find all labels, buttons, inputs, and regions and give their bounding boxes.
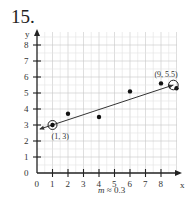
x-tick-label: 7 — [143, 179, 148, 189]
data-point — [128, 89, 132, 93]
y-axis-label: y — [25, 29, 30, 39]
x-axis-arrow-icon — [175, 170, 182, 176]
trend-arrow-icon — [39, 126, 44, 130]
y-tick-label: 4 — [24, 104, 29, 114]
y-tick-label: 1 — [24, 152, 29, 162]
grid — [37, 32, 177, 173]
scatter-plot: xy 012345678012345678 (1, 3)(9, 5.5) — [0, 0, 189, 207]
y-tick-label: 7 — [24, 56, 29, 66]
y-tick-label: 5 — [24, 88, 29, 98]
highlighted-points: (1, 3)(9, 5.5) — [48, 70, 178, 141]
slope-value: ≈ 0.3 — [105, 185, 126, 195]
y-tick-label: 3 — [24, 120, 29, 130]
x-tick-label: 1 — [50, 179, 55, 189]
x-tick-label: 3 — [81, 179, 86, 189]
data-point — [159, 81, 163, 85]
y-tick-label: 8 — [24, 40, 29, 50]
x-tick-label: 0 — [35, 179, 40, 189]
y-axis-arrow-icon — [34, 29, 40, 36]
data-point — [50, 123, 54, 127]
x-tick-label: 6 — [128, 179, 133, 189]
point-label: (1, 3) — [52, 132, 70, 141]
y-tick-label: 6 — [24, 72, 29, 82]
data-point — [66, 112, 70, 116]
x-tick-label: 2 — [66, 179, 71, 189]
x-axis-label: x — [180, 180, 185, 190]
slope-annotation: m ≈ 0.3 — [98, 185, 125, 195]
data-point — [97, 115, 101, 119]
y-tick-label: 2 — [24, 136, 29, 146]
point-label: (9, 5.5) — [154, 70, 178, 79]
x-tick-label: 8 — [159, 179, 164, 189]
y-tick-label: 0 — [24, 168, 29, 178]
